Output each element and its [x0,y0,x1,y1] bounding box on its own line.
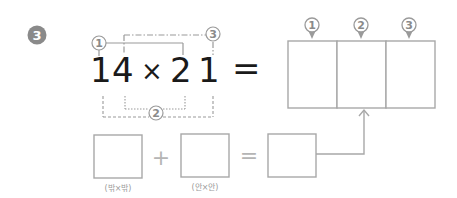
equation: 1 4 × 2 1 = [90,48,261,90]
worksheet-canvas: 3 1 4 × 2 1 = 1 3 [0,0,457,198]
problem-number: 3 [32,28,41,43]
marker-1-circle: 1 [92,36,106,50]
svg-text:1: 1 [95,37,103,50]
equals-sign-bottom: = [240,143,258,168]
svg-text:3: 3 [209,28,217,41]
result-cell-2[interactable] [337,41,386,108]
svg-text:3: 3 [405,19,413,32]
plus-sign: + [152,145,170,170]
result-cell-1[interactable] [288,41,337,108]
digit-2: 2 [170,50,192,90]
caption-inner-product: (안×안) [192,182,219,192]
digit-1: 1 [90,50,112,90]
svg-text:2: 2 [152,107,160,120]
answer-box-sum[interactable] [268,134,316,177]
digit-4: 4 [112,50,134,90]
result-box [288,41,435,108]
result-cell-3[interactable] [386,41,435,108]
answer-box-outer-product[interactable] [94,135,142,178]
svg-text:2: 2 [357,19,365,32]
arrow-to-middle-cell [316,110,369,154]
problem-number-badge: 3 [28,26,47,45]
multiply-sign: × [141,56,163,86]
answer-box-inner-product[interactable] [181,134,229,177]
marker-3-circle: 3 [206,27,220,41]
svg-text:1: 1 [308,19,316,32]
result-marker-3: 3 [402,18,416,39]
marker-2-circle: 2 [149,106,163,120]
equals-sign: = [232,48,261,88]
digit-1b: 1 [198,50,220,90]
result-marker-2: 2 [354,18,368,39]
result-marker-1: 1 [305,18,319,39]
caption-outer-product: (밖×밖) [105,183,132,193]
